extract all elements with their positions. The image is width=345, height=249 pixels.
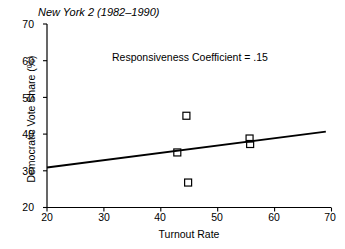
data-point-marker — [183, 112, 190, 119]
plot-area — [0, 0, 345, 249]
data-point-marker — [185, 179, 192, 186]
x-axis-ticks — [47, 208, 332, 212]
regression-line — [47, 132, 326, 168]
chart-figure: New York 2 (1982–1990) Responsiveness Co… — [0, 0, 345, 249]
